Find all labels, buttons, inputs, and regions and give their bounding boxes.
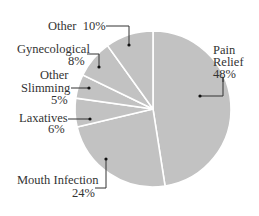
other-slimming-dot [87,86,90,89]
mouth-infection-label-line1: Mouth Infection [17,173,99,187]
pie-chart: Pain Relief 48% Mouth Infection 24% Laxa… [0,0,259,216]
other-label: Other 10% [48,19,106,33]
other-dot [127,43,130,46]
pain-relief-percent: 48% [213,67,236,81]
other-slimming-percent: 5% [51,93,68,107]
pain-relief-dot [198,94,201,97]
gynecological-percent: 8% [68,54,85,68]
laxatives-percent: 6% [48,122,65,136]
mouth-infection-dot [104,157,107,160]
mouth-infection-percent: 24% [72,186,95,200]
other-slimming-label-line1: Other [40,68,69,82]
gynecological-dot [97,65,100,68]
label-mouth-infection: Mouth Infection 24% [17,157,108,200]
laxatives-dot [88,117,91,120]
